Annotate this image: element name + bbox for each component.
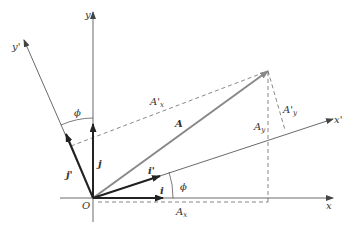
x-prime-axis-label: x' — [334, 114, 342, 125]
rotation-diagram: y x y' x' O A i j i' j' ϕ ϕ Ax Ay A'x A'… — [0, 0, 349, 228]
y-axis-label: y — [84, 9, 91, 20]
unit-vector-i-prime — [93, 176, 160, 198]
angle-arc-lower — [169, 172, 173, 198]
unit-j-label: j — [96, 158, 102, 169]
A-x-prime-component-label: A'x — [149, 96, 164, 109]
A-y-prime-component-label: A'y — [282, 104, 298, 117]
unit-j-prime-label: j' — [64, 169, 73, 180]
A-y-component-label: Ay — [253, 121, 266, 134]
origin-label: O — [82, 200, 90, 211]
vector-A-label: A — [174, 118, 183, 129]
unit-i-label: i — [160, 185, 164, 196]
svg-text:A'x: A'x — [149, 96, 164, 109]
svg-text:A'y: A'y — [282, 104, 298, 117]
A-x-component-label: Ax — [175, 206, 187, 219]
angle-arc-upper — [61, 118, 93, 125]
unit-i-prime-label: i' — [148, 165, 155, 176]
A-y-prime-projection-dash — [268, 71, 285, 130]
x-axis-label: x — [326, 200, 332, 211]
angle-lower-label: ϕ — [180, 181, 187, 192]
y-prime-axis-label: y' — [11, 41, 20, 52]
vector-A — [93, 71, 268, 198]
A-x-prime-projection-dash — [71, 71, 268, 146]
svg-text:Ax: Ax — [175, 206, 187, 219]
unit-vector-j-prime — [66, 134, 93, 198]
svg-text:Ay: Ay — [253, 121, 266, 134]
angle-upper-label: ϕ — [74, 107, 81, 118]
